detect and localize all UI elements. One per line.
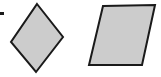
- edge-tick-mark: [0, 12, 4, 15]
- figure-container: Two quadrilaterals: a rotated square and…: [0, 0, 161, 77]
- shapes-canvas: [0, 0, 161, 77]
